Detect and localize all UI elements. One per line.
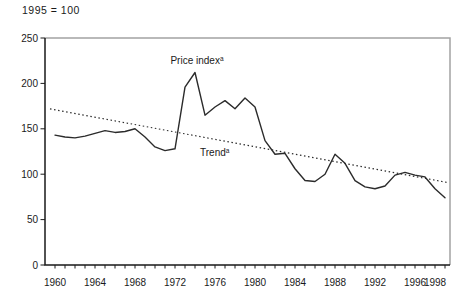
- x-tick-label: 1984: [284, 277, 307, 288]
- price-index-label-footnote-mark: a: [220, 55, 224, 62]
- index-base-note: 1995 = 100: [22, 4, 80, 16]
- x-tick-label: 1964: [84, 277, 107, 288]
- axis-lines: [45, 38, 450, 265]
- y-tick-label: 250: [21, 33, 38, 44]
- x-tick-label: 1992: [364, 277, 387, 288]
- trend-line: [50, 109, 447, 183]
- y-tick-label: 200: [21, 78, 38, 89]
- trend-label: Trenda: [200, 147, 230, 159]
- y-tick-label: 50: [27, 214, 39, 225]
- price-index-label: Price indexa: [170, 55, 223, 67]
- commodity-price-index-figure: 1995 = 100 19601964196819721976198019841…: [0, 0, 465, 300]
- price-index-line: [55, 73, 445, 198]
- plot-frame-topright: [45, 38, 450, 265]
- x-tick-label: 1968: [124, 277, 147, 288]
- x-tick-label: 1988: [324, 277, 347, 288]
- trend-label-footnote-mark: a: [226, 147, 230, 154]
- y-tick-label: 100: [21, 169, 38, 180]
- x-tick-label: 1980: [244, 277, 267, 288]
- x-tick-label: 1976: [204, 277, 227, 288]
- price-index-chart-canvas: 1960196419681972197619801984198819921996…: [0, 0, 465, 300]
- x-tick-label: 1998: [424, 277, 447, 288]
- x-tick-label: 1960: [44, 277, 67, 288]
- y-tick-label: 150: [21, 123, 38, 134]
- y-tick-label: 0: [32, 260, 38, 271]
- x-tick-label: 1972: [164, 277, 187, 288]
